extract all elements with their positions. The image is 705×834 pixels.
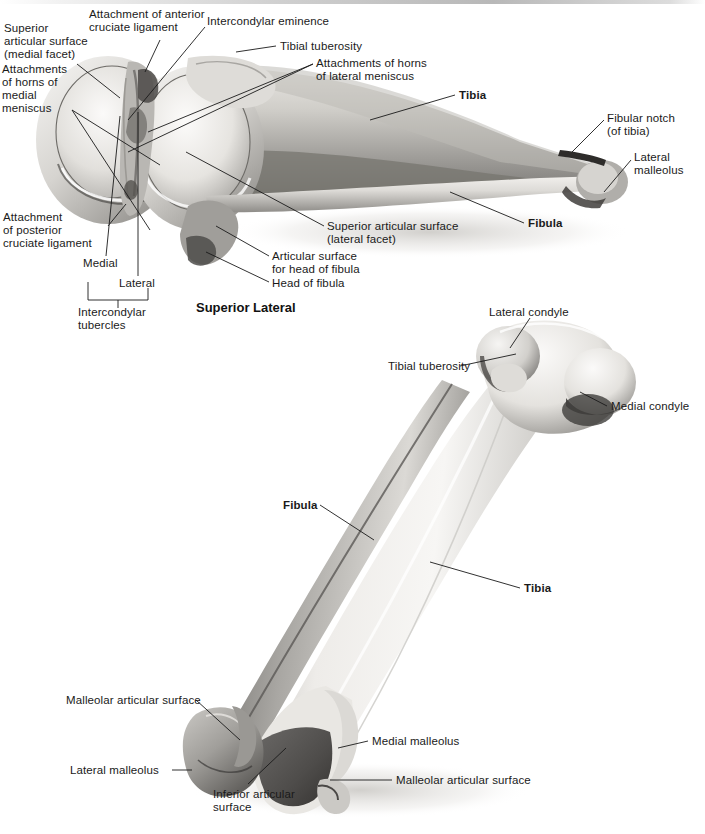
label-malleolar-articular-surface-right: Malleolar articular surface xyxy=(396,774,531,787)
label-intercondylar-eminence: Intercondylar eminence xyxy=(207,15,329,28)
label-intercondylar-tubercles: Intercondylar tubercles xyxy=(78,306,146,332)
label-attachment-of-posterior-cruciate-ligament: Attachment of posterior cruciate ligamen… xyxy=(3,211,92,250)
label-tibia-bottom: Tibia xyxy=(524,582,551,595)
bone-artwork xyxy=(0,0,705,834)
label-superior-articular-surface-lateral-facet: Superior articular surface (lateral face… xyxy=(327,220,458,246)
label-inferior-articular-surface: Inferior articular surface xyxy=(213,788,295,814)
label-attachments-of-horns-of-medial-meniscus: Attachments of horns of medial meniscus xyxy=(2,63,67,115)
label-fibula-top: Fibula xyxy=(528,217,563,230)
label-articular-surface-for-head-of-fibula: Articular surface for head of fibula xyxy=(272,250,360,276)
label-lateral-malleolus-bottom: Lateral malleolus xyxy=(70,764,159,777)
label-fibular-notch-of-tibia: Fibular notch (of tibia) xyxy=(607,112,675,138)
label-medial-condyle: Medial condyle xyxy=(611,400,689,413)
label-medial-tubercle: Medial xyxy=(83,257,118,270)
label-lateral-condyle: Lateral condyle xyxy=(489,306,569,319)
label-head-of-fibula: Head of fibula xyxy=(272,277,345,290)
label-tibial-tuberosity-bottom: Tibial tuberosity xyxy=(388,360,470,373)
label-attachments-of-horns-of-lateral-meniscus: Attachments of horns of lateral meniscus xyxy=(316,57,427,83)
label-lateral-malleolus-top: Lateral malleolus xyxy=(634,151,684,177)
caption-superior-lateral: Superior Lateral xyxy=(196,300,296,315)
label-lateral-tubercle: Lateral xyxy=(119,277,155,290)
label-attachment-of-anterior-cruciate-ligament: Attachment of anterior cruciate ligament xyxy=(89,8,205,34)
label-medial-malleolus: Medial malleolus xyxy=(372,735,460,748)
label-malleolar-articular-surface-left: Malleolar articular surface xyxy=(66,694,201,707)
label-fibula-bottom: Fibula xyxy=(283,499,318,512)
label-tibia-top: Tibia xyxy=(459,89,486,102)
anatomy-figure-page: Superior articular surface (medial facet… xyxy=(0,0,705,834)
label-tibial-tuberosity-top: Tibial tuberosity xyxy=(280,40,362,53)
label-superior-articular-surface-medial-facet: Superior articular surface (medial facet… xyxy=(4,22,88,61)
